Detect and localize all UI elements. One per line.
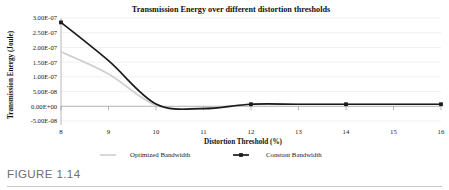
series-line — [61, 22, 441, 109]
x-axis-tick-label: 8 — [59, 128, 63, 135]
series-layer — [59, 21, 443, 110]
x-axis-tick-label: 13 — [295, 128, 302, 135]
y-axis-tick-label: 3.00E-07 — [33, 14, 58, 21]
chart-title: Transmission Energy over different disto… — [132, 5, 330, 14]
legend-label: Constant Bandwidth — [266, 151, 322, 158]
x-axis-tick-marks — [61, 106, 441, 110]
series-data-point — [59, 21, 63, 25]
x-axis-tick-label: 16 — [438, 128, 445, 135]
figure-caption-label: FIGURE 1.14 — [7, 168, 80, 180]
series-data-point — [249, 102, 253, 106]
y-axis-tick-label: 1.50E-07 — [33, 59, 58, 66]
x-axis-tick-label: 9 — [107, 128, 111, 135]
x-axis-tick-label: 10 — [153, 128, 160, 135]
series-data-point — [439, 102, 443, 106]
x-axis-tick-label: 15 — [390, 128, 397, 135]
y-axis-tick-label: 2.50E-07 — [33, 29, 58, 36]
y-axis-tick-label: -5.00E-08 — [30, 117, 57, 124]
y-axis-tick-label: 5.00E-08 — [33, 88, 58, 95]
series-line — [61, 52, 441, 109]
x-axis-title: Distortion Threshold (%) — [204, 138, 283, 146]
y-axis-tick-label: 2.00E-07 — [33, 44, 58, 51]
y-axis-tick-label: 0.00E+00 — [31, 103, 58, 110]
legend-label: Optimized Bandwidth — [130, 151, 191, 158]
figure-container: Transmission Energy over different disto… — [0, 0, 449, 190]
chart-container: Transmission Energy over different disto… — [0, 0, 449, 168]
x-axis-tick-label: 11 — [200, 128, 207, 135]
y-axis-tick-label: 1.00E-07 — [33, 73, 58, 80]
transmission-energy-line-chart: Transmission Energy over different disto… — [0, 0, 449, 168]
x-axis-tick-labels: 8910111213141516 — [59, 128, 445, 135]
x-axis-tick-label: 12 — [248, 128, 255, 135]
figure-caption-block: FIGURE 1.14 — [0, 166, 449, 190]
series-data-point — [344, 102, 348, 106]
y-axis-title: Transmission Energy (Joule) — [7, 30, 15, 119]
caption-divider — [7, 186, 442, 187]
x-axis-tick-label: 14 — [343, 128, 350, 135]
y-axis-tick-labels: -5.00E-080.00E+005.00E-081.00E-071.50E-0… — [30, 14, 57, 124]
legend-swatch-marker — [239, 153, 243, 157]
chart-legend: Optimized BandwidthConstant Bandwidth — [100, 151, 322, 158]
